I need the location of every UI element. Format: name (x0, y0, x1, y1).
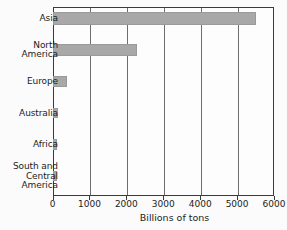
bar (53, 12, 256, 25)
category-label: Australia (19, 109, 58, 119)
tick-label-4000: 4000 (189, 199, 212, 209)
category-label: North America (22, 41, 58, 60)
category-label: Asia (40, 14, 58, 24)
bar (53, 44, 138, 57)
tick-label-0: 0 (50, 199, 56, 209)
category-label: Africa (33, 140, 58, 150)
tick-label-3000: 3000 (152, 199, 175, 209)
tick-label-2000: 2000 (115, 199, 138, 209)
x-axis-title-text: Billions of tons (140, 212, 210, 223)
tick-label-1000: 1000 (78, 199, 101, 209)
tick-label-6000: 6000 (263, 199, 286, 209)
x-axis-title: Billions of tons (0, 212, 287, 223)
bar-chart-figure: AsiaNorth AmericaEuropeAustraliaAfricaSo… (0, 0, 287, 230)
tick-label-5000: 5000 (226, 199, 249, 209)
category-label: Europe (27, 77, 58, 87)
category-label: South and Central America (13, 162, 58, 191)
bars-layer (53, 7, 275, 196)
